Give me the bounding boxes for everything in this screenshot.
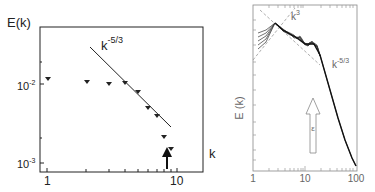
right-xtick-label-100: 100	[348, 173, 365, 184]
right-reference-label-k3: k3	[291, 9, 300, 22]
data-point	[45, 77, 51, 81]
right-reference-label-k53: k-5/3	[332, 57, 349, 70]
left-chart: E(k) 10-2 10-3 1 10 k k-5/3	[7, 15, 216, 188]
right-y-minor-ticks	[253, 20, 256, 160]
left-x-axis-label: k	[209, 146, 216, 161]
data-point	[145, 106, 151, 110]
spectrum-line	[258, 23, 320, 56]
epsilon-label: ε	[311, 124, 315, 133]
right-xtick-label-10: 10	[299, 173, 311, 184]
left-ytick-label-hi: 10-2	[17, 79, 36, 92]
data-point	[154, 114, 160, 118]
data-point	[168, 147, 174, 151]
left-xtick-label-10: 10	[170, 174, 184, 188]
data-point	[161, 135, 167, 139]
left-y-axis-label: E(k)	[7, 15, 31, 30]
left-reference-label: k-5/3	[101, 35, 123, 53]
left-ytick-label-lo: 10-3	[17, 157, 36, 170]
left-plot-frame	[40, 27, 203, 172]
data-point	[106, 82, 112, 86]
left-xtick-label-1: 1	[44, 174, 51, 188]
right-y-axis-label: E (k)	[233, 96, 245, 119]
energy-injection-arrow: ε	[306, 98, 320, 153]
right-reference-line-k53	[260, 10, 320, 65]
left-data-points	[45, 77, 174, 151]
right-xtick-label-1: 1	[250, 173, 256, 184]
figure: E(k) 10-2 10-3 1 10 k k-5/3	[0, 0, 375, 192]
right-chart: E (k) 1 10 100 k3 k-5/3 ε	[233, 5, 365, 184]
data-point	[84, 80, 90, 84]
